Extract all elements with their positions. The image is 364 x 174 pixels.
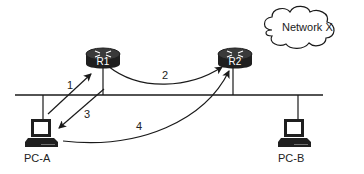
pc-a-label: PC-A: [24, 153, 50, 164]
router-r1-label: R1: [86, 57, 120, 67]
flow-4-arrow: [63, 71, 229, 143]
flow-4-label: 4: [136, 121, 142, 132]
router-r2-label: R2: [218, 57, 252, 67]
flow-2-label: 2: [162, 70, 168, 81]
pc-a-icon: [25, 119, 58, 147]
cloud-label: Network X: [282, 22, 333, 33]
pc-b-icon: [278, 119, 311, 147]
pc-b-label: PC-B: [278, 153, 304, 164]
network-diagram: R1 R2 Network X PC-A PC-B 1 2 3 4: [0, 0, 364, 174]
flow-1-label: 1: [67, 80, 73, 91]
flow-3-label: 3: [84, 109, 90, 120]
